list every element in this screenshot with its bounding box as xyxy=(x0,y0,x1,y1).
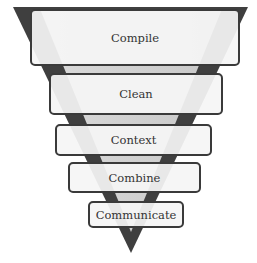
stage-label: Context xyxy=(111,133,157,147)
stage-label: Compile xyxy=(111,31,159,45)
stage-label: Communicate xyxy=(96,208,177,222)
stage-communicate: Communicate xyxy=(88,201,184,228)
stage-label: Clean xyxy=(119,87,153,101)
stage-context: Context xyxy=(55,124,212,156)
stage-clean: Clean xyxy=(49,73,223,115)
stage-combine: Combine xyxy=(68,162,201,193)
stage-label: Combine xyxy=(109,171,161,185)
stage-compile: Compile xyxy=(30,9,240,66)
